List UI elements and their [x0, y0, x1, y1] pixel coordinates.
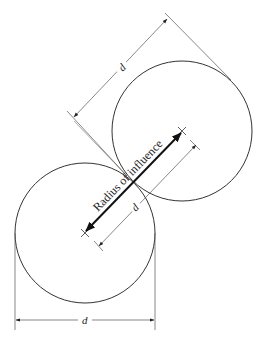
inner-extension-line-bottom — [94, 241, 103, 251]
top-extension-line-left — [67, 111, 127, 176]
inner-extension-line-top — [190, 140, 200, 150]
bottom-dimension-label: d — [82, 314, 88, 326]
diagram-canvas: d Radius of influence d d — [0, 0, 264, 343]
tangent-line-secondary — [74, 121, 127, 176]
radius-of-influence-arrow — [86, 133, 181, 231]
top-extension-line-right — [165, 13, 231, 80]
